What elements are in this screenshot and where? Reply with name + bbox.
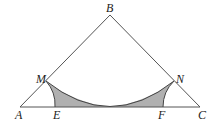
label-M: M — [35, 72, 47, 86]
label-A: A — [14, 108, 23, 122]
left-shaded-region — [46, 81, 110, 107]
right-shaded-region — [110, 81, 174, 107]
label-F: F — [157, 108, 166, 122]
geometry-diagram: B M N A E F C — [0, 0, 216, 125]
label-B: B — [106, 1, 114, 15]
label-N: N — [175, 72, 185, 86]
label-E: E — [52, 108, 61, 122]
label-C: C — [198, 108, 207, 122]
